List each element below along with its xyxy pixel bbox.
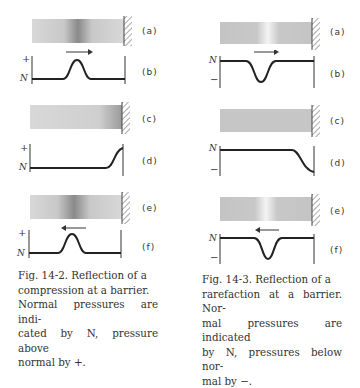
density-bar-e	[28, 190, 132, 224]
figure-caption: Fig. 14-2. Reflection of a compression a…	[18, 268, 158, 370]
barrier-icon	[312, 105, 320, 137]
panel-label-b: (b)	[330, 69, 346, 79]
panel-label-c: (c)	[142, 114, 157, 124]
panel-label-e: (e)	[330, 206, 346, 216]
density-bar-e	[218, 192, 322, 226]
barrier-icon	[124, 16, 132, 46]
barrier-icon	[122, 102, 130, 134]
pressure-plot-d	[216, 144, 322, 178]
arrow-left-icon	[255, 227, 279, 233]
panel-label-b: (b)	[142, 67, 158, 77]
arrow-right-icon	[66, 49, 93, 55]
panel-label-d: (d)	[142, 156, 158, 166]
figure-caption: Fig. 14-3. Reflection of a rarefaction a…	[202, 272, 342, 388]
arrow-right-icon	[254, 50, 279, 55]
figure-14-3: (a) N − (b) (c) N − (d) (e) N − (f)	[180, 0, 360, 353]
panel-label-a: (a)	[330, 27, 346, 37]
barrier-icon	[312, 194, 320, 226]
figure-14-2: (a) + N (b) (c) + N (d) (e) + N (f)	[0, 0, 180, 353]
pressure-plot-f	[24, 224, 128, 262]
panel-label-d: (d)	[330, 158, 346, 168]
panel-label-f: (f)	[330, 245, 343, 255]
density-bar-a	[30, 16, 134, 46]
panel-label-a: (a)	[142, 26, 158, 36]
panel-label-c: (c)	[330, 116, 345, 126]
barrier-icon	[122, 192, 130, 224]
pressure-plot-b	[28, 48, 130, 88]
arrow-left-icon	[61, 225, 86, 231]
barrier-icon	[312, 18, 320, 50]
pressure-plot-f	[216, 226, 322, 266]
density-bar-a	[218, 16, 322, 50]
pressure-plot-b	[216, 50, 322, 90]
density-bar-c	[218, 104, 322, 138]
normal-label: N	[20, 73, 28, 83]
density-bar-c	[28, 100, 132, 134]
panel-label-f: (f)	[142, 242, 155, 252]
pressure-plot-d	[26, 142, 130, 178]
panel-label-e: (e)	[142, 203, 158, 213]
